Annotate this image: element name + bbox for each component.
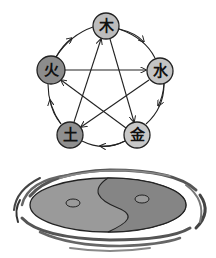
element-metal: 金 [124, 122, 150, 148]
element-water: 水 [147, 58, 173, 84]
arrow-water-to-metal [146, 84, 164, 124]
arrow-earth-to-wood [74, 39, 101, 122]
arrow-fire-to-wood [56, 27, 93, 57]
five-elements-diagram: 木 火 水 土 金 [0, 0, 216, 258]
arrow-wood-to-water [119, 29, 155, 58]
arrow-earth-to-fire [48, 84, 61, 124]
element-earth: 土 [57, 122, 83, 148]
yin-yang-symbol [30, 178, 186, 232]
element-metal-label: 金 [129, 126, 146, 144]
element-wood: 木 [93, 13, 119, 39]
element-fire-label: 火 [44, 61, 60, 79]
yang-dot [135, 195, 149, 203]
arrow-wood-to-metal [110, 39, 134, 122]
element-water-label: 水 [153, 62, 169, 80]
arrow-metal-to-fire [61, 80, 126, 128]
overcoming-cycle [61, 39, 149, 128]
element-wood-label: 木 [98, 17, 115, 35]
yin-dot [66, 199, 80, 207]
element-fire: 火 [37, 56, 65, 84]
element-earth-label: 土 [63, 126, 78, 144]
